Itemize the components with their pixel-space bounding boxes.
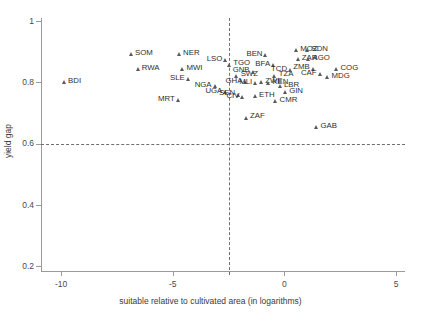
- data-point: [294, 48, 298, 52]
- x-tick: [396, 271, 397, 276]
- data-point: [253, 81, 257, 85]
- data-point-label: MDG: [332, 72, 350, 80]
- y-tick: [36, 205, 41, 206]
- data-point: [318, 72, 322, 76]
- data-point: [266, 81, 270, 85]
- data-point: [240, 95, 244, 99]
- data-point-label: MLI: [0, 78, 252, 86]
- reference-line-y: [41, 144, 405, 145]
- data-point: [244, 116, 248, 120]
- x-tick: [284, 271, 285, 276]
- data-point: [334, 67, 338, 71]
- y-tick: [36, 266, 41, 267]
- data-point-label: SDN: [311, 45, 327, 53]
- y-tick-label: 0.4: [4, 201, 34, 210]
- y-tick-label: 0.2: [4, 262, 34, 271]
- data-point: [306, 57, 310, 61]
- data-point: [314, 125, 318, 129]
- data-point: [273, 99, 277, 103]
- x-tick: [173, 271, 174, 276]
- data-point: [283, 90, 287, 94]
- data-point-label: COG: [340, 64, 358, 72]
- data-point-label: CAF: [0, 69, 317, 77]
- x-tick-label: 0: [264, 279, 304, 289]
- data-point-label: AGO: [313, 54, 330, 62]
- y-tick-label: 1: [4, 17, 34, 26]
- data-point: [325, 75, 329, 79]
- x-axis-title: suitable relative to cultivated area (in…: [0, 296, 421, 306]
- data-point-label: CMR: [280, 96, 298, 104]
- x-tick-label: 5: [376, 279, 416, 289]
- data-point: [305, 48, 309, 52]
- x-axis-line: [41, 271, 405, 272]
- data-point: [296, 57, 300, 61]
- data-point-label: GAB: [320, 122, 336, 130]
- y-tick: [36, 21, 41, 22]
- scatter-chart: 0.20.40.60.81 -10-505 BDISOMRWANERMWISLE…: [0, 0, 421, 320]
- data-point-label: ETH: [259, 91, 275, 99]
- x-tick-label: -5: [153, 279, 193, 289]
- x-tick: [61, 271, 62, 276]
- data-point: [259, 80, 263, 84]
- data-point: [263, 53, 267, 57]
- data-point-label: ZAF: [250, 112, 265, 120]
- x-tick-label: -10: [41, 279, 81, 289]
- data-point: [278, 84, 282, 88]
- data-point: [253, 94, 257, 98]
- data-point-label: GIN: [289, 87, 303, 95]
- data-point-label: BEN: [0, 50, 262, 58]
- data-point-label: CIV: [0, 92, 239, 100]
- y-axis-title: yield gap: [3, 111, 13, 171]
